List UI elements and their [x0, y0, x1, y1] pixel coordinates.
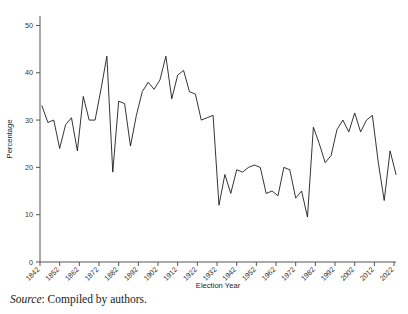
y-axis-title: Percentage [5, 120, 14, 159]
y-tick-label: 10 [25, 210, 33, 219]
x-tick-label: 1902 [142, 265, 160, 283]
series-group [42, 56, 396, 217]
source-note: Source: Compiled by authors. [10, 293, 147, 305]
y-axis-ticks: 01020304050 [25, 21, 40, 267]
line-chart: 01020304050 1842185218621872188218921902… [0, 0, 408, 290]
x-tick-label: 1862 [63, 265, 81, 283]
x-tick-label: 2002 [338, 265, 356, 283]
x-tick-label: 1972 [279, 265, 297, 283]
source-note-text: : Compiled by authors. [42, 293, 147, 305]
x-tick-label: 1952 [240, 265, 258, 283]
x-tick-label: 1852 [43, 265, 61, 283]
y-tick-label: 0 [29, 258, 33, 267]
x-axis-title: Election Year [196, 281, 241, 290]
plot-frame [40, 16, 396, 262]
source-note-label: Source [10, 293, 42, 305]
figure-container: 01020304050 1842185218621872188218921902… [0, 0, 408, 314]
x-tick-label: 2022 [378, 265, 396, 283]
x-tick-label: 1842 [24, 265, 42, 283]
x-tick-label: 1872 [83, 265, 101, 283]
x-tick-label: 1982 [299, 265, 317, 283]
y-tick-label: 30 [25, 116, 33, 125]
x-tick-label: 1912 [161, 265, 179, 283]
y-tick-label: 20 [25, 163, 33, 172]
x-tick-label: 1882 [102, 265, 120, 283]
x-tick-label: 1892 [122, 265, 140, 283]
x-tick-label: 1992 [319, 265, 337, 283]
y-tick-label: 50 [25, 21, 33, 30]
x-axis-ticks: 1842185218621872188218921902191219221932… [24, 262, 396, 283]
x-tick-label: 2012 [358, 265, 376, 283]
x-tick-label: 1962 [260, 265, 278, 283]
data-line-percentage [42, 56, 396, 217]
y-tick-label: 40 [25, 68, 33, 77]
